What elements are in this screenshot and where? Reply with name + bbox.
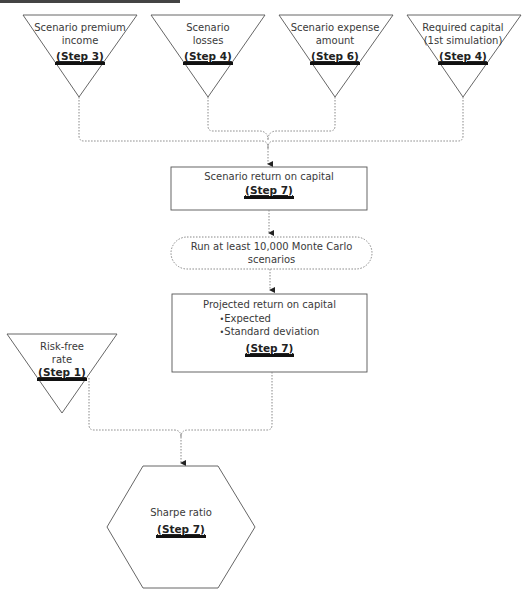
input-losses: Scenario losses (Step 4)	[158, 22, 258, 65]
sharpe-connectors	[89, 372, 272, 463]
label-line: losses	[158, 35, 258, 48]
input-expense: Scenario expense amount (Step 6)	[285, 22, 385, 65]
step-badge: (Step 4)	[183, 50, 233, 65]
step-badge: (Step 7)	[156, 523, 206, 538]
step-badge: (Step 7)	[245, 342, 295, 357]
step-badge: (Step 6)	[310, 50, 360, 65]
input-connectors	[79, 97, 463, 164]
label-line: (1st simulation)	[413, 35, 513, 48]
label-line: rate	[17, 354, 107, 367]
risk-free-label: Risk-free rate (Step 1)	[17, 341, 107, 381]
label-line: income	[30, 35, 130, 48]
label-line: Scenario expense	[285, 22, 385, 35]
monte-carlo-label: Run at least 10,000 Monte Carlo scenario…	[171, 241, 372, 266]
box-title: Sharpe ratio	[131, 507, 231, 520]
input-required-capital: Required capital (1st simulation) (Step …	[413, 22, 513, 65]
label-line: Risk-free	[17, 341, 107, 354]
input-premium-income: Scenario premium income (Step 3)	[30, 22, 130, 65]
label-line: Scenario premium	[30, 22, 130, 35]
box-title: Projected return on capital	[172, 299, 367, 312]
step-badge: (Step 3)	[55, 50, 105, 65]
label-line: amount	[285, 35, 385, 48]
bullet-list: Expected Standard deviation	[220, 313, 320, 340]
label-line: scenarios	[171, 254, 372, 267]
projected-roc-label: Projected return on capital Expected Sta…	[172, 299, 367, 357]
bullet-std-dev: Standard deviation	[220, 326, 320, 340]
label-line: Scenario	[158, 22, 258, 35]
bullet-expected: Expected	[220, 313, 320, 327]
step-badge: (Step 1)	[37, 366, 87, 381]
label-line: Required capital	[413, 22, 513, 35]
step-badge: (Step 4)	[438, 50, 488, 65]
box-title: Scenario return on capital	[171, 171, 367, 184]
label-line: Run at least 10,000 Monte Carlo	[171, 241, 372, 254]
header-fragment	[0, 0, 180, 3]
step-badge: (Step 7)	[244, 184, 294, 199]
sharpe-label: Sharpe ratio (Step 7)	[131, 507, 231, 538]
scenario-roc-label: Scenario return on capital (Step 7)	[171, 171, 367, 199]
